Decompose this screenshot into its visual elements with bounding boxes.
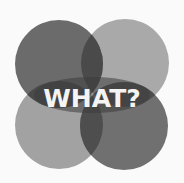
what-label: WHAT?	[0, 84, 184, 113]
